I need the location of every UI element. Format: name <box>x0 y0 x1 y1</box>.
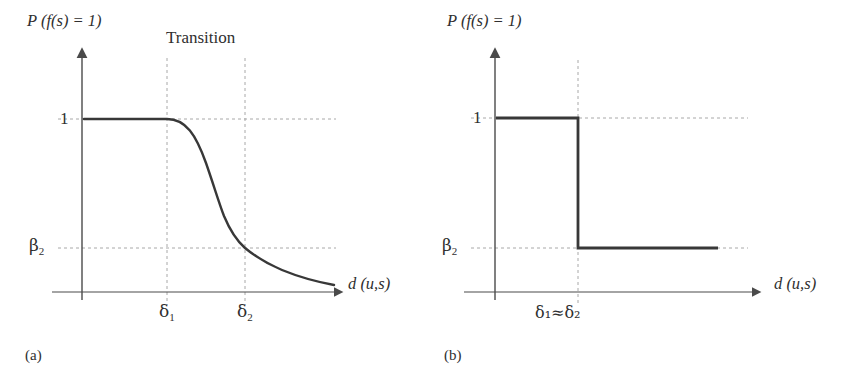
panel-a-tag: (a) <box>25 348 42 363</box>
delta2-subscript: 2 <box>247 311 253 323</box>
panel-b-ytick-1: 1 <box>473 109 482 126</box>
delta2-glyph: δ <box>237 301 247 321</box>
figure-container: P (f(s) = 1) Transition d (u,s) 1 β2 δ1 … <box>0 0 862 390</box>
panel-b-y-axis-label: P (f(s) = 1) <box>447 13 522 30</box>
beta-subscript: 2 <box>452 245 458 257</box>
panel-a-xtick-delta1: δ1 <box>159 303 175 323</box>
panel-b: P (f(s) = 1) d (u,s) 1 β2 δ₁≈δ₂ (b) <box>431 0 862 390</box>
probability-curve <box>84 119 334 285</box>
beta-glyph: β <box>442 235 452 255</box>
panel-b-xtick-delta-approx: δ₁≈δ₂ <box>535 305 581 321</box>
panel-a-ytick-beta2: β2 <box>29 237 44 257</box>
panel-a-y-axis-label: P (f(s) = 1) <box>27 13 102 30</box>
panel-b-ytick-beta2: β2 <box>442 237 457 257</box>
panel-b-x-axis-label: d (u,s) <box>774 276 816 293</box>
panel-a-ytick-1: 1 <box>60 110 69 127</box>
delta1-subscript: 1 <box>169 311 175 323</box>
probability-step-curve <box>496 118 718 248</box>
panel-b-tag: (b) <box>444 348 462 363</box>
beta-subscript: 2 <box>39 245 45 257</box>
panel-a: P (f(s) = 1) Transition d (u,s) 1 β2 δ1 … <box>0 0 431 390</box>
panel-a-xtick-delta2: δ2 <box>237 303 253 323</box>
panel-a-x-axis-label: d (u,s) <box>348 276 390 293</box>
delta1-glyph: δ <box>159 301 169 321</box>
panel-b-graphics <box>431 0 862 390</box>
transition-annotation: Transition <box>166 29 235 46</box>
panel-a-graphics <box>0 0 431 390</box>
beta-glyph: β <box>29 235 39 255</box>
